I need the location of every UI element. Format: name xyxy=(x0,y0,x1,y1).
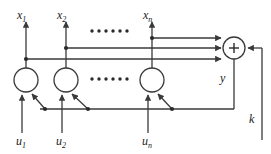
label-u1: u1 xyxy=(16,135,26,150)
feedback-arrow-n xyxy=(158,94,172,109)
junction-dot-fb-2 xyxy=(86,107,90,111)
label-x2: x2 xyxy=(57,9,66,24)
junction-dot-x2-tap xyxy=(64,46,68,50)
neuron-1 xyxy=(14,68,38,92)
label-y: y xyxy=(220,72,225,84)
block-diagram: x1 x2 xn u1 u2 un y k xyxy=(0,0,271,154)
feedback-arrow-2 xyxy=(72,94,88,109)
neuron-n xyxy=(140,68,164,92)
label-xn: xn xyxy=(143,9,152,24)
diagram-canvas xyxy=(0,0,271,154)
ellipsis-top-row xyxy=(90,29,128,32)
feedback-arrow-1 xyxy=(32,94,45,109)
label-k: k xyxy=(249,113,254,125)
junction-dot-xn-tap xyxy=(150,36,154,40)
junction-dot-fb-1 xyxy=(43,107,47,111)
junction-dot-x1-tap xyxy=(24,57,28,61)
junction-dot-fb-n xyxy=(170,107,174,111)
label-un: un xyxy=(142,135,152,150)
ellipsis-middle-row xyxy=(90,77,128,80)
neuron-2 xyxy=(54,68,78,92)
label-x1: x1 xyxy=(17,9,26,24)
label-u2: u2 xyxy=(56,135,66,150)
